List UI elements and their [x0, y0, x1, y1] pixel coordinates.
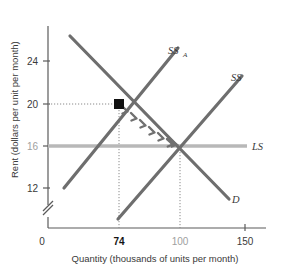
supply-demand-chart: 24 20 16 12 0 74 100 150 SS A SS LS D Re…	[0, 0, 287, 271]
curve-label-ls: LS	[251, 141, 264, 152]
chart-svg: 24 20 16 12 0 74 100 150 SS A SS LS D Re…	[0, 0, 287, 271]
curve-label-ss: SS	[231, 72, 242, 83]
x-tick-label-150: 150	[237, 236, 254, 247]
x-tick-label-0: 0	[39, 236, 45, 247]
x-tick-label-100: 100	[172, 236, 189, 247]
curve-label-d: D	[231, 194, 240, 205]
y-tick-label-24: 24	[27, 56, 39, 67]
curve-label-ss-a: SS	[168, 45, 179, 56]
guide-lines-group	[48, 104, 180, 228]
y-axis-title: Rent (dollars per unit per month)	[9, 41, 20, 178]
adjustment-arrow-chain	[122, 106, 179, 148]
y-tick-label-16: 16	[27, 141, 39, 152]
x-axis-title: Quantity (thousands of units per month)	[72, 253, 239, 264]
curve-ss-a	[64, 48, 178, 188]
y-tick-label-20: 20	[27, 99, 39, 110]
y-tick-label-12: 12	[27, 183, 39, 194]
x-tick-label-74: 74	[113, 236, 125, 247]
short-run-equilibrium-marker	[114, 99, 124, 109]
curve-label-ss-a-sub: A	[182, 51, 188, 59]
